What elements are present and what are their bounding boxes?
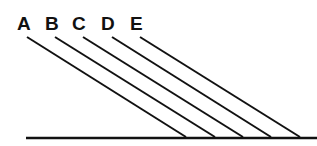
rays-group: ABCDE — [17, 13, 300, 137]
ray-label-a: A — [17, 13, 31, 34]
ray-label-b: B — [45, 13, 59, 34]
ray-label-c: C — [72, 13, 86, 34]
parallel-rays-diagram: ABCDE — [0, 0, 317, 146]
ray-label-e: E — [130, 13, 143, 34]
ray-label-d: D — [101, 13, 115, 34]
